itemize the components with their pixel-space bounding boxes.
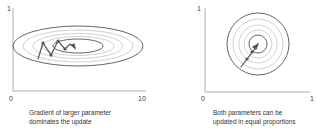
right-x-tick-1: 1 [310,95,314,103]
left-y-tick-1: 1 [7,5,11,13]
left-caption-line2: dominates the update [29,117,111,126]
right-y-tick-1: 1 [197,5,201,13]
right-caption: Both parameters can be updated in equal … [213,108,295,126]
right-caption-line2: updated in equal proportions [213,117,295,126]
left-caption: Gradient of larger parameter dominates t… [29,108,111,126]
right-caption-line1: Both parameters can be [213,108,295,117]
left-x-tick-0: 0 [9,95,13,103]
left-axes [13,8,146,91]
left-contours [13,26,143,66]
left-x-tick-10: 10 [138,95,146,103]
right-axes [205,8,310,92]
left-caption-line1: Gradient of larger parameter [29,108,111,117]
right-x-tick-0: 0 [201,95,205,103]
